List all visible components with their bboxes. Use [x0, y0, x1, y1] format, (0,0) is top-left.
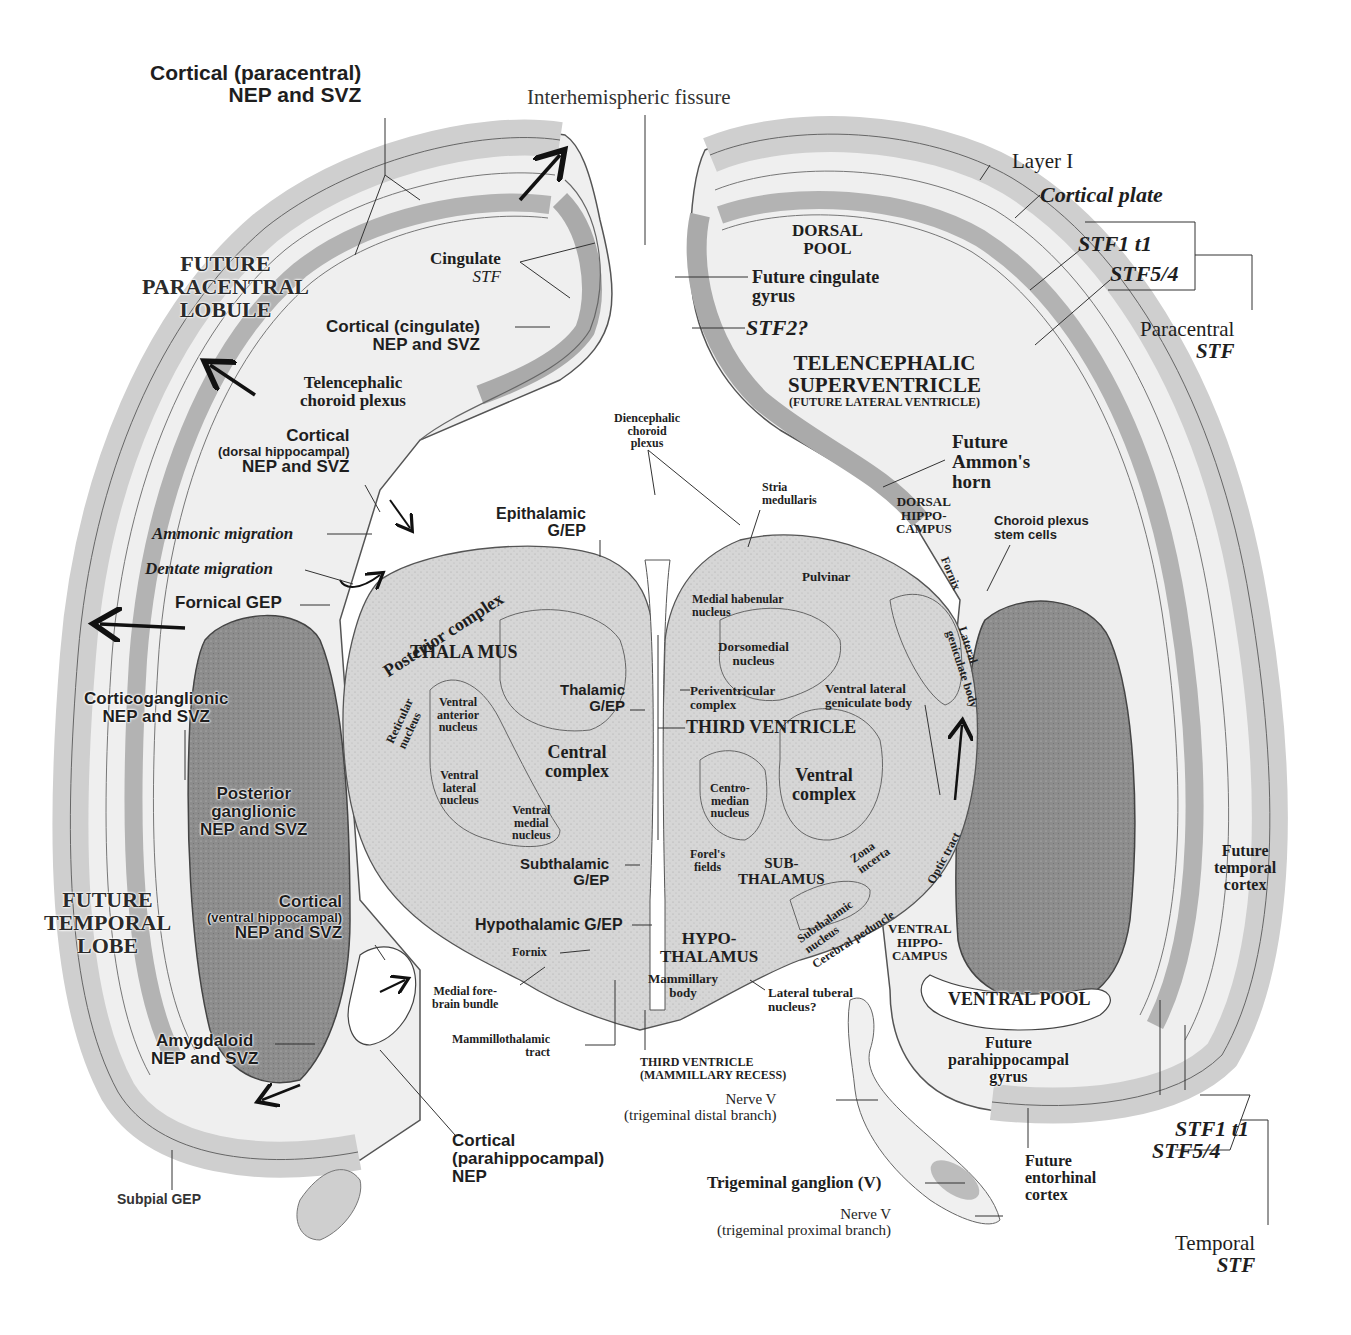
label-subpial-gep: Subpial GEP	[117, 1192, 201, 1207]
label-ammonic-migration: Ammonic migration	[152, 525, 293, 543]
label-stf5-4-bottom: STF5/4	[1152, 1139, 1220, 1162]
arrow-ammonic-icon	[390, 500, 410, 528]
label-subthalamus: SUB- THALAMUS	[738, 856, 825, 888]
label-epithalamic-gep: Epithalamic G/EP	[496, 506, 586, 540]
label-ventral-lateral-geniculate-body: Ventral lateral geniculate body	[825, 682, 912, 709]
label-diencephalic-choroid-plexus: Diencephalic choroid plexus	[614, 412, 680, 450]
label-ventral-pool: VENTRAL POOL	[948, 990, 1091, 1009]
label-paracentral-stf: Paracentral STF	[1140, 318, 1234, 362]
left-nerve-fragment	[297, 1170, 361, 1240]
label-stria-medullaris: Stria medullaris	[762, 481, 817, 506]
label-third-ventricle: THIRD VENTRICLE	[686, 718, 856, 737]
label-cortical-ventral-hippocampal: Cortical (ventral hippocampal) NEP and S…	[207, 893, 342, 942]
label-lateral-tuberal-nucleus: Lateral tuberal nucleus?	[768, 986, 853, 1013]
label-dorsal-hippocampus: DORSAL HIPPO- CAMPUS	[896, 495, 952, 536]
label-telencephalic-superventricle: TELENCEPHALIC SUPERVENTRICLE (FUTURE LAT…	[788, 352, 981, 409]
label-dorsal-pool: DORSAL POOL	[792, 222, 863, 258]
left-ganglionic-eminence	[188, 616, 350, 1083]
label-future-ammons-horn: Future Ammon's horn	[952, 432, 1030, 492]
label-future-temporal-lobe: FUTURE TEMPORAL LOBE	[44, 888, 171, 957]
label-thalamus: THALA MUS	[410, 643, 518, 662]
label-thalamic-gep: Thalamic G/EP	[560, 682, 625, 714]
label-dentate-migration: Dentate migration	[145, 560, 273, 578]
label-dorsomedial-nucleus: Dorsomedial nucleus	[718, 640, 789, 667]
right-ganglionic-eminence	[956, 601, 1135, 1006]
label-third-ventricle-mammillary-recess: THIRD VENTRICLE (MAMMILLARY RECESS)	[640, 1056, 786, 1081]
label-cortical-plate: Cortical plate	[1040, 183, 1163, 206]
label-stf1-t1-bottom: STF1 t1	[1175, 1117, 1249, 1140]
label-nerve-v-distal: Nerve V (trigeminal distal branch)	[624, 1092, 776, 1124]
label-ventral-anterior-nucleus: Ventral anterior nucleus	[437, 696, 479, 734]
label-fornical-gep: Fornical GEP	[175, 594, 282, 612]
label-future-cingulate-gyrus: Future cingulate gyrus	[752, 268, 879, 306]
label-centromedian-nucleus: Centro- median nucleus	[710, 782, 750, 820]
label-periventricular-complex: Periventricular complex	[690, 684, 775, 711]
label-fornix-lower: Fornix	[512, 946, 547, 959]
label-cortical-cingulate-nep-svz: Cortical (cingulate) NEP and SVZ	[326, 318, 480, 354]
label-telencephalic-choroid-plexus: Telencephalic choroid plexus	[300, 374, 406, 410]
label-mammillothalamic-tract: Mammillothalamic tract	[452, 1033, 550, 1058]
label-subthalamic-gep: Subthalamic G/EP	[520, 856, 609, 888]
label-ventral-hippocampus: VENTRAL HIPPO- CAMPUS	[888, 922, 952, 963]
label-layer-i: Layer I	[1012, 150, 1073, 172]
label-pulvinar: Pulvinar	[802, 570, 850, 584]
label-cortical-paracentral-nep-svz: Cortical (paracentral) NEP and SVZ	[150, 62, 361, 106]
label-ventral-complex: Ventral complex	[792, 766, 856, 804]
label-future-parahippocampal-gyrus: Future parahippocampal gyrus	[948, 1035, 1069, 1085]
label-cortical-parahippocampal-nep: Cortical (parahippocampal) NEP	[452, 1132, 604, 1186]
label-stf2: STF2?	[746, 316, 808, 339]
label-future-temporal-cortex: Future temporal cortex	[1214, 843, 1276, 893]
label-cingulate-stf: Cingulate STF	[430, 250, 501, 286]
label-future-entorhinal-cortex: Future entorhinal cortex	[1025, 1153, 1096, 1203]
label-interhemispheric-fissure: Interhemispheric fissure	[527, 86, 731, 108]
label-posterior-ganglionic-nep-svz: Posterior ganglionic NEP and SVZ	[200, 785, 307, 839]
label-future-paracentral-lobule: FUTURE PARACENTRAL LOBULE	[142, 252, 309, 321]
label-forels-fields: Forel's fields	[690, 848, 725, 873]
label-cortical-dorsal-hippocampal: Cortical (dorsal hippocampal) NEP and SV…	[218, 427, 349, 476]
label-stf1-t1-top: STF1 t1	[1078, 232, 1152, 255]
label-medial-forebrain-bundle: Medial fore- brain bundle	[432, 985, 498, 1010]
label-medial-habenular-nucleus: Medial habenular nucleus	[692, 593, 784, 618]
label-central-complex: Central complex	[545, 743, 609, 781]
label-corticoganglionic-nep-svz: Corticoganglionic NEP and SVZ	[84, 690, 229, 726]
label-stf5-4-top: STF5/4	[1110, 262, 1178, 285]
label-amygdaloid-nep-svz: Amygdaloid NEP and SVZ	[151, 1032, 258, 1068]
label-hypothalamic-gep: Hypothalamic G/EP	[475, 917, 623, 934]
label-mammillary-body: Mammillary body	[648, 972, 718, 999]
label-trigeminal-ganglion: Trigeminal ganglion (V)	[707, 1174, 881, 1192]
label-temporal-stf: Temporal STF	[1175, 1232, 1255, 1276]
label-choroid-plexus-stem-cells: Choroid plexus stem cells	[994, 514, 1089, 541]
label-ventral-medial-nucleus: Ventral medial nucleus	[512, 804, 551, 842]
label-nerve-v-proximal: Nerve V (trigeminal proximal branch)	[717, 1207, 891, 1239]
label-ventral-lateral-nucleus: Ventral lateral nucleus	[440, 769, 479, 807]
label-hypothalamus: HYPO- THALAMUS	[660, 930, 758, 966]
